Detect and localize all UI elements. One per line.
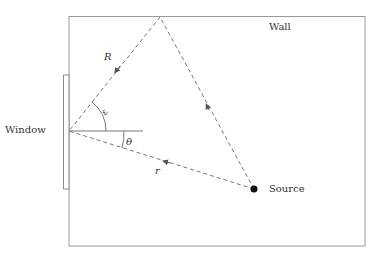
window-label: Window xyxy=(5,124,46,135)
diagram-canvas xyxy=(0,0,379,260)
ray-wall-to-window xyxy=(69,17,160,131)
arrow-r xyxy=(165,162,170,164)
ray-source-to-window xyxy=(69,131,254,189)
angle-arc-theta xyxy=(122,131,124,148)
angle-arc-phi xyxy=(92,102,106,131)
R-label: R xyxy=(104,51,112,62)
theta-label: θ xyxy=(126,136,132,147)
r-label: r xyxy=(155,165,160,176)
wall-label: Wall xyxy=(269,21,291,32)
source-dot xyxy=(251,186,258,193)
ray-source-to-wall xyxy=(160,17,254,189)
window-pane xyxy=(64,75,70,189)
source-label: Source xyxy=(269,183,305,194)
